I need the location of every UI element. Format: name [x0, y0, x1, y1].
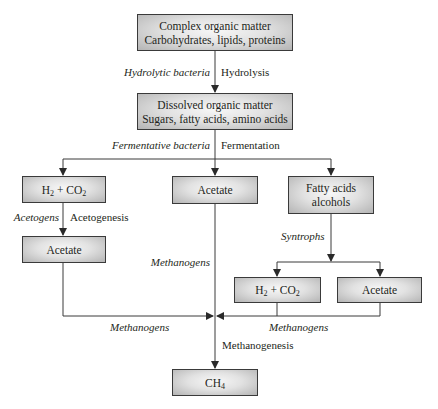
label-methanogens-right: Methanogens	[269, 321, 328, 334]
node-acetate-right: Acetate	[337, 277, 422, 303]
label-methanogens-left: Methanogens	[110, 321, 169, 334]
node-formula: H2 + CO2	[42, 183, 87, 197]
node-fatty-acids-alcohols: Fatty acids alcohols	[288, 176, 374, 214]
label-acetogenesis: Acetogenesis	[70, 211, 129, 224]
node-h2-co2-left: H2 + CO2	[22, 176, 106, 203]
node-label: Acetate	[46, 243, 81, 257]
node-acetate-middle: Acetate	[172, 176, 258, 204]
label-syntrophs: Syntrophs	[281, 230, 325, 243]
label-acetogens: Acetogens	[14, 211, 59, 224]
node-line: Sugars, fatty acids, amino acids	[142, 112, 288, 126]
node-formula: H2 + CO2	[255, 283, 300, 297]
node-line: Carbohydrates, lipids, proteins	[144, 33, 285, 47]
label-methanogenesis: Methanogenesis	[222, 339, 293, 352]
node-line: Complex organic matter	[159, 19, 271, 33]
label-fermentative-bacteria: Fermentative bacteria	[112, 139, 210, 152]
node-acetate-left: Acetate	[22, 236, 106, 263]
node-line: alcohols	[312, 195, 350, 209]
node-label: Acetate	[197, 183, 232, 197]
node-formula: CH4	[205, 376, 225, 390]
label-hydrolytic-bacteria: Hydrolytic bacteria	[124, 66, 210, 79]
node-label: Acetate	[362, 283, 397, 297]
node-h2-co2-right: H2 + CO2	[234, 277, 321, 303]
node-complex-organic-matter: Complex organic matter Carbohydrates, li…	[137, 14, 293, 51]
node-line: Fatty acids	[306, 181, 356, 195]
node-ch4: CH4	[172, 369, 258, 396]
label-fermentation: Fermentation	[221, 139, 280, 152]
node-dissolved-organic-matter: Dissolved organic matter Sugars, fatty a…	[137, 93, 293, 130]
label-methanogens-middle: Methanogens	[151, 256, 210, 269]
label-hydrolysis: Hydrolysis	[221, 66, 269, 79]
node-line: Dissolved organic matter	[157, 98, 272, 112]
